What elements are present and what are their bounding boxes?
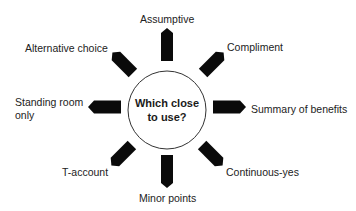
label-summary-of-benefits: Summary of benefits	[251, 103, 347, 116]
center-question-line2: to use?	[127, 110, 207, 124]
center-question-line1: Which close	[127, 96, 207, 110]
label-standing-room-line2: only	[15, 109, 83, 122]
label-continuous-yes: Continuous-yes	[226, 166, 299, 179]
arrow-down-right-icon	[198, 141, 227, 170]
label-standing-room-only: Standing room only	[15, 96, 83, 122]
label-alternative-choice: Alternative choice	[25, 42, 108, 55]
center-question: Which close to use?	[127, 96, 207, 124]
label-standing-room-line1: Standing room	[15, 96, 83, 109]
arrow-up-icon	[161, 28, 173, 61]
arrow-left-icon	[88, 101, 121, 114]
close-selection-diagram: Which close to use? Assumptive Complimen…	[0, 0, 356, 211]
arrow-up-right-icon	[199, 48, 228, 77]
label-minor-points: Minor points	[139, 192, 196, 205]
label-compliment: Compliment	[227, 41, 283, 54]
label-t-account: T-account	[62, 166, 108, 179]
label-assumptive: Assumptive	[140, 13, 194, 26]
arrow-down-left-icon	[107, 141, 136, 170]
arrow-down-icon	[161, 155, 173, 188]
arrow-up-left-icon	[108, 48, 137, 77]
arrow-right-icon	[213, 101, 246, 114]
